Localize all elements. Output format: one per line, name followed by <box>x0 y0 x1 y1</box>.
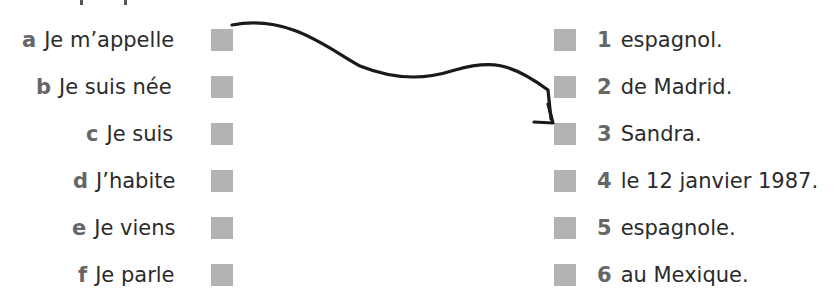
answer-box-c[interactable] <box>211 123 233 145</box>
item-number: 3 <box>597 122 612 146</box>
right-item-3: 3 Sandra. <box>597 119 702 149</box>
item-number: 1 <box>597 28 612 52</box>
right-item-6: 6 au Mexique. <box>597 260 749 290</box>
item-text: au Mexique. <box>621 263 749 287</box>
item-text: Je parle <box>95 263 174 287</box>
item-text: de Madrid. <box>621 75 733 99</box>
item-letter: e <box>72 216 86 240</box>
answer-box-3[interactable] <box>554 123 576 145</box>
item-text: Je suis née <box>59 75 172 99</box>
left-item-a: a Je m’appelle <box>22 25 174 55</box>
item-letter: a <box>22 28 36 52</box>
answer-box-5[interactable] <box>554 217 576 239</box>
left-item-f: f Je parle <box>78 260 175 290</box>
item-letter: d <box>73 169 88 193</box>
item-letter: f <box>78 263 87 287</box>
item-text: espagnol. <box>621 28 723 52</box>
answer-box-b[interactable] <box>211 76 233 98</box>
right-item-4: 4 le 12 janvier 1987. <box>597 166 818 196</box>
item-text: Sandra. <box>621 122 702 146</box>
item-letter: c <box>86 122 98 146</box>
answer-box-1[interactable] <box>554 29 576 51</box>
item-text: espagnole. <box>621 216 736 240</box>
answer-box-a[interactable] <box>211 29 233 51</box>
left-item-e: e Je viens <box>72 213 175 243</box>
item-text: Je suis <box>106 122 173 146</box>
item-number: 5 <box>597 216 612 240</box>
item-number: 4 <box>597 169 612 193</box>
item-letter: b <box>36 75 51 99</box>
item-text: J’habite <box>96 169 175 193</box>
answer-box-4[interactable] <box>554 170 576 192</box>
right-item-5: 5 espagnole. <box>597 213 736 243</box>
item-number: 6 <box>597 263 612 287</box>
left-item-c: c Je suis <box>86 119 173 149</box>
answer-box-6[interactable] <box>554 264 576 286</box>
answer-box-e[interactable] <box>211 217 233 239</box>
right-item-1: 1 espagnol. <box>597 25 723 55</box>
left-item-b: b Je suis née <box>36 72 172 102</box>
cut-off-heading-fragment <box>0 0 836 6</box>
item-text: Je viens <box>94 216 175 240</box>
left-item-d: d J’habite <box>73 166 175 196</box>
answer-box-f[interactable] <box>211 264 233 286</box>
answer-box-d[interactable] <box>211 170 233 192</box>
right-item-2: 2 de Madrid. <box>597 72 732 102</box>
item-text: le 12 janvier 1987. <box>621 169 818 193</box>
item-number: 2 <box>597 75 612 99</box>
item-text: Je m’appelle <box>44 28 174 52</box>
answer-box-2[interactable] <box>554 76 576 98</box>
